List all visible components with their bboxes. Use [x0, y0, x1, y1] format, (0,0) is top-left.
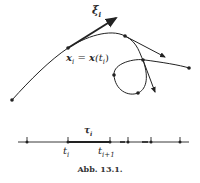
- label-tau: τi: [84, 125, 92, 137]
- tangent-vector-3: [143, 60, 155, 92]
- tangent-vector-2: [125, 36, 165, 57]
- spline-curve: [12, 33, 189, 100]
- figure-caption: Abb. 13.1.: [0, 164, 200, 174]
- knot-points: [10, 34, 191, 102]
- label-xi: ξi: [92, 4, 101, 19]
- parameter-axis: [18, 137, 189, 144]
- label-point-equation: xi = x(ti): [66, 52, 109, 66]
- label-t-i: ti: [63, 145, 69, 159]
- label-t-i-plus-1: ti+1: [98, 145, 115, 159]
